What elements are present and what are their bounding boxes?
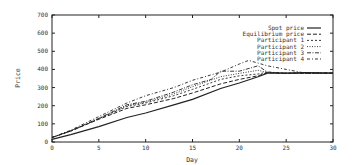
y-tick-label: 300 bbox=[37, 84, 48, 91]
series-line-spot-price bbox=[52, 73, 333, 140]
x-tick-label: 15 bbox=[189, 144, 197, 151]
x-tick-label: 10 bbox=[142, 144, 150, 151]
y-tick-label: 600 bbox=[37, 29, 48, 36]
x-tick-label: 25 bbox=[283, 144, 291, 151]
y-tick-label: 700 bbox=[37, 11, 48, 18]
x-tick-label: 0 bbox=[50, 144, 54, 151]
y-tick-label: 200 bbox=[37, 102, 48, 109]
y-tick-label: 500 bbox=[37, 47, 48, 54]
x-axis-title: Day bbox=[186, 156, 198, 164]
x-tick-label: 30 bbox=[329, 144, 337, 151]
legend: Spot priceEquilibrium priceParticipant 1… bbox=[243, 24, 321, 63]
y-tick-label: 0 bbox=[44, 138, 48, 145]
y-tick-label: 400 bbox=[37, 65, 48, 72]
series-line-participant-3 bbox=[52, 66, 333, 138]
series-layer bbox=[52, 60, 333, 139]
x-tick-label: 20 bbox=[236, 144, 244, 151]
y-axis-title: Price bbox=[14, 68, 22, 88]
price-line-chart: 0510152025300100200300400500600700 Day P… bbox=[0, 0, 354, 165]
legend-label-participant-4: Participant 4 bbox=[257, 55, 304, 63]
x-tick-label: 5 bbox=[97, 144, 101, 151]
y-tick-label: 100 bbox=[37, 120, 48, 127]
